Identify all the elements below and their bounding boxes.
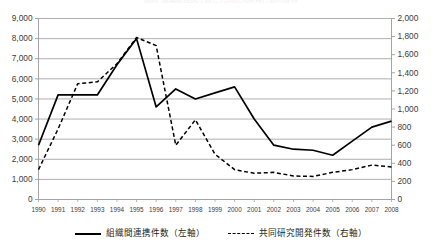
left-axis-tick-label: 5,000 (0, 95, 33, 103)
left-axis-tick-label: 0 (0, 195, 33, 203)
right-axis-tick-label: 1,200 (398, 87, 419, 95)
right-axis-tick-label: 600 (398, 141, 412, 149)
right-axis-tick-label: 1,000 (398, 105, 419, 113)
left-axis-tick-label: 4,000 (0, 115, 33, 123)
chart-legend: 組織間連携件数（左軸） 共同研究開発件数（右軸） (0, 222, 442, 243)
right-axis-tick-label: 1,800 (398, 32, 419, 40)
left-axis-tick-label: 1,000 (0, 175, 33, 183)
right-axis-tick-label: 0 (398, 195, 403, 203)
x-axis-tick-label: 2008 (380, 206, 404, 213)
left-axis-tick-label: 6,000 (0, 75, 33, 83)
series-line-1 (39, 39, 392, 156)
right-axis-tick-label: 1,400 (398, 69, 419, 77)
right-axis-tick-label: 400 (398, 159, 412, 167)
legend-item-dashed: 共同研究開発件数（右軸） (228, 222, 367, 243)
legend-item-solid: 組織間連携件数（左軸） (75, 222, 205, 243)
right-axis-tick-label: 1,600 (398, 50, 419, 58)
left-axis-tick-label: 8,000 (0, 34, 33, 42)
legend-item-label: 共同研究開発件数（右軸） (259, 228, 367, 238)
gridlines (39, 19, 392, 200)
axis-lines (39, 19, 392, 200)
right-axis-tick-label: 800 (398, 123, 412, 131)
left-axis-tick-label: 9,000 (0, 14, 33, 22)
left-axis-tick-label: 7,000 (0, 54, 33, 62)
axis-tickmarks (35, 19, 395, 203)
right-axis-tick-label: 200 (398, 177, 412, 185)
chart-figure: 図表 組織間連携件数と共同研究開発件数の推移 01,0002,0003,0004… (0, 0, 442, 243)
left-axis-tick-label: 2,000 (0, 155, 33, 163)
left-axis-tick-label: 3,000 (0, 135, 33, 143)
legend-item-label: 組織間連携件数（左軸） (106, 228, 205, 238)
solid-line-icon (75, 228, 101, 238)
dashed-line-icon (228, 228, 254, 238)
right-axis-tick-label: 2,000 (398, 14, 419, 22)
